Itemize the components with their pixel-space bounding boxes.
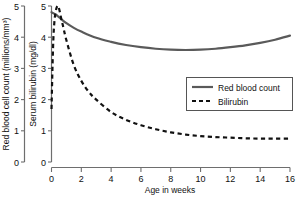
x-tick-label-14: 14 — [255, 174, 265, 184]
x-ticks — [52, 168, 291, 173]
chart-figure: 5 4 3 2 1 0 Red blood cell count (millio… — [0, 0, 297, 200]
x-tick-label-10: 10 — [196, 174, 206, 184]
outer-y-tick-3: 3 — [14, 64, 19, 74]
legend-label-red-blood-count: Red blood count — [218, 83, 281, 93]
outer-y-tick-0: 0 — [14, 158, 19, 168]
x-tick-label-4: 4 — [109, 174, 114, 184]
outer-y-tick-1: 1 — [14, 126, 19, 136]
axis-serum-bilirubin: 5 4 3 2 1 0 Serum bilirubin (mg/dl) — [28, 2, 52, 168]
legend: Red blood count Bilirubin — [187, 78, 293, 111]
inner-y-axis-title: Serum bilirubin (mg/dl) — [28, 41, 38, 127]
outer-y-tick-2: 2 — [14, 95, 19, 105]
inner-y-tick-5: 5 — [41, 2, 46, 12]
x-tick-label-8: 8 — [168, 174, 173, 184]
inner-y-tick-1: 1 — [41, 126, 46, 136]
series-line-red-blood-count — [52, 12, 291, 50]
x-tick-label-2: 2 — [79, 174, 84, 184]
inner-y-tick-3: 3 — [41, 64, 46, 74]
x-tick-label-6: 6 — [138, 174, 143, 184]
x-tick-label-0: 0 — [49, 174, 54, 184]
outer-y-tick-5: 5 — [14, 2, 19, 12]
x-tick-label-12: 12 — [225, 174, 235, 184]
inner-y-tick-0: 0 — [41, 158, 46, 168]
legend-label-bilirubin: Bilirubin — [218, 97, 249, 107]
axis-age-in-weeks: 0246810121416 Age in weeks — [49, 168, 295, 196]
axis-red-blood-cell-count: 5 4 3 2 1 0 Red blood cell count (millio… — [1, 2, 25, 168]
series-line-bilirubin — [52, 6, 291, 139]
x-tick-label-16: 16 — [285, 174, 295, 184]
inner-y-tick-4: 4 — [41, 33, 46, 43]
x-axis-title: Age in weeks — [145, 185, 196, 195]
outer-y-axis-title: Red blood cell count (millions/mm³) — [1, 17, 11, 150]
outer-y-tick-4: 4 — [14, 33, 19, 43]
inner-y-tick-2: 2 — [41, 95, 46, 105]
x-tick-labels: 0246810121416 — [49, 174, 295, 184]
